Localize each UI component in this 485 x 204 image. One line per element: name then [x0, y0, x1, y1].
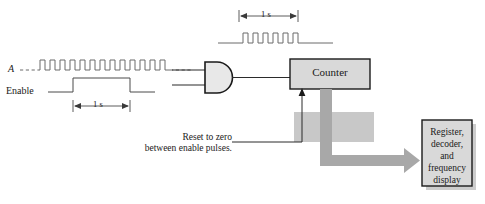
gated-waveform: [218, 33, 333, 43]
diagram-canvas: A Enable 1 s 1 s Counter Reset to zero b…: [0, 0, 485, 204]
display-block-label: Register, decoder, and frequency display: [422, 127, 472, 186]
diagram-svg: [0, 0, 485, 204]
display-label-line-2: decoder,: [422, 139, 472, 151]
display-label-line-3: and: [422, 151, 472, 163]
signal-a-waveform: [38, 60, 170, 70]
display-label-line-1: Register,: [422, 127, 472, 139]
and-gate-body: [205, 62, 233, 93]
enable-duration-label: 1 s: [93, 100, 103, 110]
reset-note-line-1: Reset to zero: [62, 132, 232, 143]
signal-a-label: A: [8, 63, 14, 74]
dimension-arrowhead-left: [240, 13, 247, 19]
dimension-arrowhead-right: [290, 13, 297, 19]
enable-signal-label: Enable: [6, 85, 34, 96]
counter-block-shadow: [294, 112, 374, 142]
enable-dimension-arrowhead-right: [122, 103, 129, 109]
enable-waveform: [48, 78, 155, 92]
gated-duration-label: 1 s: [261, 10, 271, 20]
reset-note-line-2: between enable pulses.: [62, 143, 232, 154]
display-label-line-5: display: [422, 175, 472, 187]
display-label-line-4: frequency: [422, 163, 472, 175]
counter-block-label: Counter: [290, 66, 370, 78]
enable-dimension-arrowhead-left: [74, 103, 81, 109]
